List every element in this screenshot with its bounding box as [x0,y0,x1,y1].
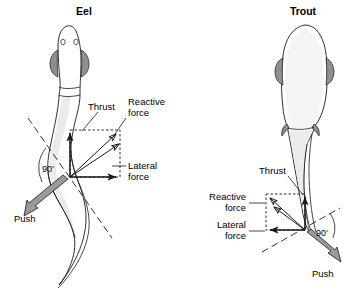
trout-body-shading [285,29,323,128]
trout-thrust-label: Thrust [259,165,286,176]
swimming-mechanics-diagram: Eel [0,0,348,292]
eel-push-label: Push [14,213,36,224]
trout-lateral-force-label-line2: force [225,230,246,241]
trout-push-label: Push [312,268,334,279]
trout-tail-contour-outer [309,134,316,232]
eel-left-pectoral-fin [50,50,58,77]
trout-reactive-force-label-line2: force [225,202,246,213]
eel-thrust-label: Thrust [88,101,115,112]
eel-reactive-force-component-vector [70,144,119,177]
trout-panel: Trout [209,5,341,279]
trout-angle-label: 90° [316,228,329,238]
eel-reactive-force-leader [113,118,126,137]
trout-panel-title: Trout [290,5,317,17]
eel-panel: Eel [14,5,165,288]
eel-thrust-leader [82,112,98,131]
trout-lateral-force-label-line1: Lateral [217,219,246,230]
trout-left-pectoral-fin [275,58,283,85]
eel-right-eye [74,39,78,45]
trout-right-pectoral-fin [326,58,334,85]
trout-reactive-force-vector [270,198,305,230]
eel-body [48,26,89,288]
trout-angle-arc [330,213,335,238]
trout-reactive-force-component-vector [274,207,305,230]
eel-reactive-force-vector [70,134,116,177]
eel-lateral-force-label-line1: Lateral [128,160,157,171]
eel-reactive-force-label-line1: Reactive [128,96,165,107]
trout-angle-degree-symbol: ° [326,229,329,235]
trout-reactive-force-label-line1: Reactive [209,191,246,202]
eel-left-eye [61,39,65,45]
eel-lateral-force-label-line2: force [128,171,149,182]
eel-right-pectoral-fin [81,50,89,77]
eel-reactive-force-label-line2: force [128,107,149,118]
eel-panel-title: Eel [76,5,92,17]
figure-container: Eel [0,0,348,292]
